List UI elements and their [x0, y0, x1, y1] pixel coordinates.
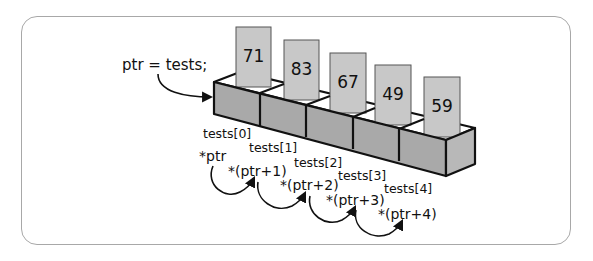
array-pointer-diagram: ptr = tests; 71 83 67 49 59: [0, 0, 593, 261]
value-3: 49: [382, 84, 404, 104]
pointer-expr-3: *(ptr+3): [326, 192, 385, 208]
pointer-expr-4: *(ptr+4): [378, 206, 437, 222]
value-4: 59: [431, 96, 453, 116]
pointer-expr-1: *(ptr+1): [228, 163, 287, 179]
pointer-expr-0: *ptr: [199, 148, 226, 164]
pointer-assignment-label: ptr = tests;: [122, 56, 207, 74]
index-label-3: tests[3]: [338, 168, 386, 183]
index-label-1: tests[1]: [249, 140, 297, 155]
index-label-4: tests[4]: [384, 181, 432, 196]
value-1: 83: [291, 59, 313, 79]
value-2: 67: [337, 72, 359, 92]
assignment-arrow-icon: [158, 74, 211, 97]
index-label-0: tests[0]: [203, 126, 251, 141]
value-0: 71: [243, 46, 265, 66]
index-label-2: tests[2]: [294, 155, 342, 170]
pointer-expr-2: *(ptr+2): [280, 177, 339, 193]
